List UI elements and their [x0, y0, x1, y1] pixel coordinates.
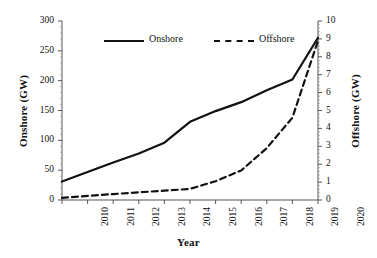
series-line-offshore — [62, 41, 318, 198]
legend-swatch-onshore — [104, 40, 144, 42]
series-line-onshore — [62, 38, 318, 182]
legend-label-onshore: Onshore — [149, 33, 183, 44]
plot-area — [0, 0, 377, 258]
legend-swatch-offshore — [214, 40, 254, 42]
wind-capacity-chart: Onshore (GW) Offshore (GW) Year 05010015… — [0, 0, 377, 258]
legend-label-offshore: Offshore — [259, 33, 294, 44]
